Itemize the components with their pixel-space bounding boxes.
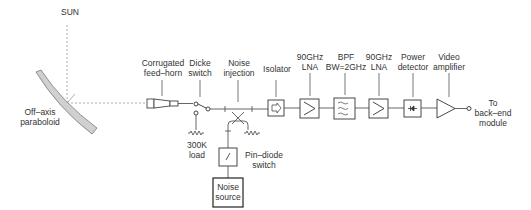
coupler-icon [225,106,252,148]
output-label: To back–end module [471,98,515,128]
video-amplifier-label: Video amplifier [427,52,471,72]
paraboloid-label: Off–axis paraboloid [15,107,65,127]
lna1-label: 90GHz LNA [292,52,328,72]
pin-diode-label: Pin–diode switch [241,150,287,170]
dicke-switch-label: Dicke switch [181,58,219,78]
load-resistor-icon [188,131,204,135]
lna2-box [369,99,388,118]
lna2-label: 90GHz LNA [361,52,397,72]
termination-resistor-icon [244,131,260,135]
bpf-box [334,98,355,119]
sun-label: SUN [58,7,82,17]
noise-injection-label: Noise injection [218,58,260,78]
normal-line [67,94,75,103]
dicke-switch-icon [194,102,210,115]
receiver-block-diagram [0,0,531,210]
feed-horn-icon [147,99,178,108]
isolator-label: Isolator [258,64,296,74]
lna1-box [300,99,319,118]
video-amplifier-icon [437,99,455,118]
noise-source-label: Noise source [213,182,243,202]
load-label: 300K load [180,140,214,160]
